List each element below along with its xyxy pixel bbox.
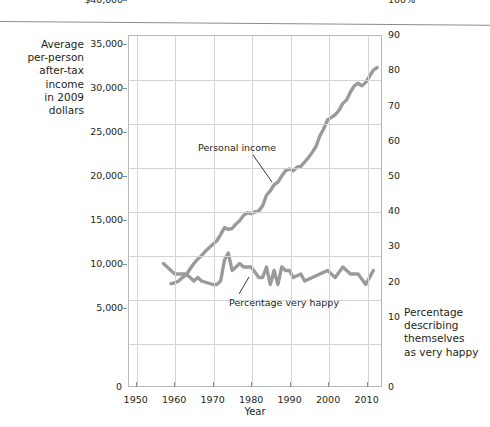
y-axis-left-zero: 0 <box>96 381 122 392</box>
x-axis-tick-label: 1980 <box>239 394 263 405</box>
x-axis-tick-label: 2010 <box>355 394 379 405</box>
x-axis-tick-mark <box>251 382 252 387</box>
x-axis-tick-mark <box>290 382 291 387</box>
x-axis-tick-mark <box>367 382 368 387</box>
x-axis-tick-mark <box>328 382 329 387</box>
x-axis-tick-mark <box>213 382 214 387</box>
chart-figure: Average per-person after-tax income in 2… <box>0 0 490 427</box>
x-axis-title: Year <box>128 406 382 417</box>
annotation-leader-lines <box>0 0 490 427</box>
x-axis-tick-label: 1950 <box>124 394 148 405</box>
x-axis-tick-label: 1960 <box>162 394 186 405</box>
x-axis-tick-mark <box>136 382 137 387</box>
x-axis-tick-label: 2000 <box>316 394 340 405</box>
x-axis-tick-mark <box>174 382 175 387</box>
x-axis-tick-label: 1970 <box>201 394 225 405</box>
y-axis-right-zero: 0 <box>388 381 394 392</box>
x-axis-tick-label: 1990 <box>278 394 302 405</box>
